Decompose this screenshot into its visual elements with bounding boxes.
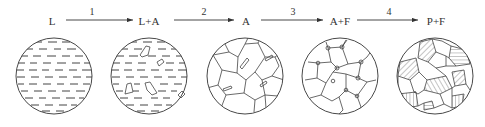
transition-arrow-1: 1 (66, 6, 133, 20)
transition-number-2: 2 (202, 6, 207, 17)
transition-number-3: 3 (291, 6, 296, 17)
microstructure-austenite (207, 36, 284, 115)
microstructure-liquid (16, 38, 92, 114)
transition-arrow-4: 4 (357, 6, 418, 20)
transition-number-4: 4 (387, 6, 392, 17)
circle-outline (302, 38, 378, 114)
stage-label-A: A (242, 15, 250, 27)
austenite-crystals (125, 46, 185, 98)
stage-label-L: L (49, 15, 56, 27)
microstructure-austenite-ferrite (302, 38, 378, 115)
microstructure-liquid-austenite (111, 38, 187, 114)
ferrite-needles (223, 55, 273, 91)
stage-label-A-F: A+F (330, 15, 350, 27)
transition-arrow-2: 2 (174, 6, 234, 20)
transition-number-1: 1 (90, 6, 95, 17)
stage-label-L-A: L+A (139, 15, 160, 27)
transition-arrow-3: 3 (261, 6, 323, 20)
microstructure-pearlite-ferrite (397, 38, 473, 114)
phase-diagram: L L+A A A+F P+F 1 2 3 4 (0, 0, 485, 127)
stage-label-P-F: P+F (427, 15, 445, 27)
